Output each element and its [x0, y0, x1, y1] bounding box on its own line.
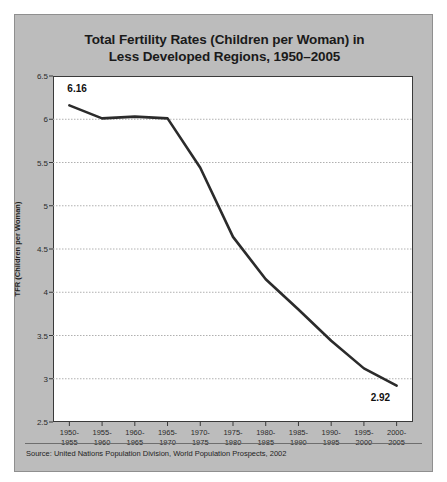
x-axis-tick-label: 1980-1985 [256, 428, 275, 447]
x-axis-tick-label-start: 1960- [125, 428, 144, 438]
x-axis-tick-label-start: 1970- [191, 428, 210, 438]
first-value-label: 6.16 [67, 83, 86, 94]
source-note: Source: United Nations Population Divisi… [26, 449, 416, 458]
y-axis-tick-label: 6.5 [37, 72, 48, 81]
y-axis-tick-label: 4 [44, 288, 48, 297]
x-axis-tick-label: 1965-1970 [158, 428, 177, 447]
x-axis-tick-label-start: 1995- [354, 428, 373, 438]
x-axis-tick-label: 1955-1960 [92, 428, 111, 447]
x-axis-tick-label: 2000-2005 [387, 428, 406, 447]
source-divider [25, 443, 422, 444]
x-axis-tick-label: 1950-1955 [60, 428, 79, 447]
x-axis-tick-label: 1970-1975 [191, 428, 210, 447]
plot-wrapper: 2.533.544.555.566.51950-19551955-1960196… [53, 76, 413, 422]
y-axis-tick-label: 4.5 [37, 245, 48, 254]
y-axis-tick-label: 5.5 [37, 158, 48, 167]
y-axis-tick-label: 3 [44, 374, 48, 383]
last-value-label: 2.92 [371, 392, 390, 403]
x-axis-tick-label-start: 1990- [322, 428, 341, 438]
x-axis-tick-label: 1960-1965 [125, 428, 144, 447]
x-axis-tick-label: 1985-1990 [289, 428, 308, 447]
tick-layer: 2.533.544.555.566.51950-19551955-1960196… [53, 76, 413, 422]
chart-title: Total Fertility Rates (Children per Woma… [15, 31, 434, 65]
x-axis-tick-label-start: 1955- [92, 428, 111, 438]
x-axis-tick-label-start: 1965- [158, 428, 177, 438]
x-axis-tick-label: 1995-2000 [354, 428, 373, 447]
chart-title-line-2: Less Developed Regions, 1950–2005 [15, 48, 434, 65]
y-axis-tick-label: 5 [44, 201, 48, 210]
x-axis-tick-label-start: 1950- [60, 428, 79, 438]
chart-title-line-1: Total Fertility Rates (Children per Woma… [84, 32, 364, 47]
x-axis-tick-label-start: 2000- [387, 428, 406, 438]
y-axis-title: TFR (Children per Woman) [13, 202, 22, 297]
y-axis-tick-label: 3.5 [37, 331, 48, 340]
x-axis-tick-label-start: 1980- [256, 428, 275, 438]
x-axis-tick-label-start: 1985- [289, 428, 308, 438]
y-axis-tick-label: 2.5 [37, 418, 48, 427]
y-axis-tick-label: 6 [44, 115, 48, 124]
chart-figure: Total Fertility Rates (Children per Woma… [14, 14, 433, 472]
x-axis-tick-label: 1975-1980 [223, 428, 242, 447]
x-axis-tick-label: 1990-1995 [322, 428, 341, 447]
x-axis-tick-label-start: 1975- [223, 428, 242, 438]
